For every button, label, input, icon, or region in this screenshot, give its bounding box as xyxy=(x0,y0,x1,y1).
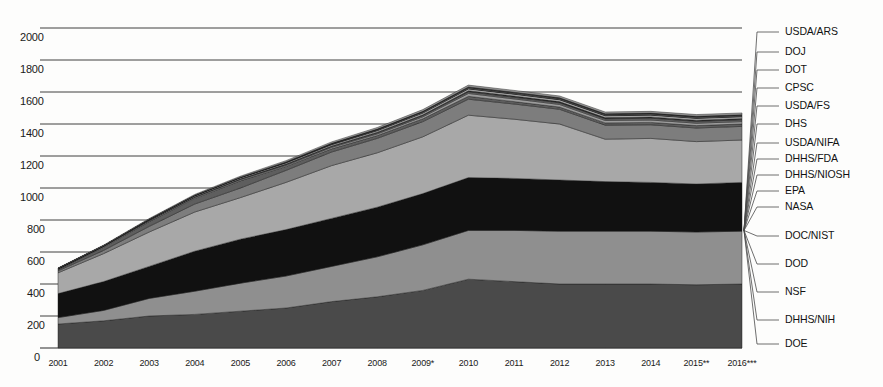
y-axis-tick-label: 200 xyxy=(27,319,45,331)
legend-label-usda-fs: USDA/FS xyxy=(785,99,830,111)
x-axis-tick-label: 2011 xyxy=(492,358,536,368)
chart-root: 0200400600800100012001400160018002000200… xyxy=(0,0,883,387)
x-axis-tick-label: 2006 xyxy=(264,358,308,368)
legend-label-doj: DOJ xyxy=(785,45,806,57)
y-axis-tick-label: 1800 xyxy=(20,63,44,75)
x-axis-tick-label: 2004 xyxy=(173,358,217,368)
legend-label-cpsc: CPSC xyxy=(785,81,814,93)
legend-leader-line xyxy=(744,207,779,230)
x-axis-tick-label: 2014 xyxy=(629,358,673,368)
y-axis-tick-label: 1000 xyxy=(20,191,44,203)
legend-label-dod: DOD xyxy=(785,257,808,269)
legend-label-usda-nifa: USDA/NIFA xyxy=(785,136,840,148)
x-axis-tick-label: 2007 xyxy=(310,358,354,368)
x-axis-tick-label: 2001 xyxy=(36,358,80,368)
legend-leader-line xyxy=(744,230,779,344)
x-axis-tick-label: 2008 xyxy=(355,358,399,368)
y-axis-tick-label: 600 xyxy=(27,255,45,267)
legend-leader-line xyxy=(744,230,779,264)
x-axis-tick-label: 2005 xyxy=(218,358,262,368)
legend-label-epa: EPA xyxy=(785,184,805,196)
legend-label-dot: DOT xyxy=(785,63,807,75)
legend-leader-line xyxy=(744,230,779,292)
y-axis-tick-label: 1400 xyxy=(20,127,44,139)
legend-label-doe: DOE xyxy=(785,337,807,349)
legend-label-dhhs-fda: DHHS/FDA xyxy=(785,152,838,164)
x-axis-tick-label: 2003 xyxy=(127,358,171,368)
x-axis-tick-label: 2015** xyxy=(674,358,718,368)
y-axis-tick-label: 1600 xyxy=(20,95,44,107)
y-axis-tick-label: 2000 xyxy=(20,31,44,43)
chart-svg xyxy=(0,0,883,387)
x-axis-tick-label: 2016*** xyxy=(720,358,764,368)
legend-label-doc-nist: DOC/NIST xyxy=(785,229,834,241)
legend-label-usda-ars: USDA/ARS xyxy=(785,25,838,37)
x-axis-tick-label: 2002 xyxy=(82,358,126,368)
legend-label-dhs: DHS xyxy=(785,117,807,129)
legend-label-nasa: NASA xyxy=(785,200,813,212)
x-axis-tick-label: 2012 xyxy=(538,358,582,368)
x-axis-tick-label: 2009* xyxy=(401,358,445,368)
stacked-area-chart xyxy=(0,0,883,387)
legend-label-nsf: NSF xyxy=(785,285,806,297)
y-axis-tick-label: 800 xyxy=(27,223,45,235)
legend-label-dhhs-nih: DHHS/NIH xyxy=(785,313,835,325)
legend-label-dhhs-niosh: DHHS/NIOSH xyxy=(785,168,850,180)
x-axis-tick-label: 2010 xyxy=(446,358,490,368)
y-axis-tick-label: 1200 xyxy=(20,159,44,171)
x-axis-tick-label: 2013 xyxy=(583,358,627,368)
y-axis-tick-label: 400 xyxy=(27,287,45,299)
legend-leader-line xyxy=(744,230,779,236)
